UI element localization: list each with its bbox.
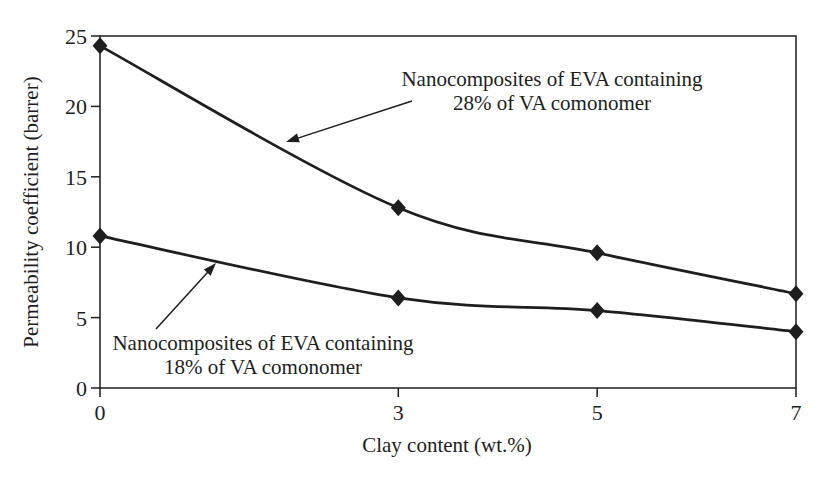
x-tick-label: 0: [95, 400, 106, 425]
data-point-s1-x0: [93, 227, 108, 244]
data-point-s0-x3: [391, 199, 406, 216]
data-point-s0-x7: [789, 285, 804, 302]
data-point-s1-x7: [789, 323, 804, 340]
annotation-arrow-eva28-head: [286, 134, 300, 143]
y-tick-label: 10: [65, 235, 87, 260]
y-tick-label: 15: [65, 165, 87, 190]
data-point-s0-x5: [590, 244, 605, 261]
x-tick-label: 3: [393, 400, 404, 425]
y-tick-label: 20: [65, 94, 87, 119]
y-tick-label: 25: [65, 24, 87, 49]
data-point-s1-x5: [590, 302, 605, 319]
data-point-s1-x3: [391, 289, 406, 306]
y-axis-title: Permeability coefficient (barrer): [19, 76, 44, 347]
annotation-eva28-line2: 28% of VA comonomer: [378, 91, 726, 115]
y-tick-label: 5: [76, 306, 87, 331]
x-tick-label: 5: [592, 400, 603, 425]
annotation-arrow-eva18-line: [156, 270, 209, 329]
data-point-s0-x0: [93, 37, 108, 54]
annotation-eva18-line1: Nanocomposites of EVA containing: [106, 331, 420, 355]
annotation-eva28: Nanocomposites of EVA containing 28% of …: [378, 67, 726, 115]
figure: 05101520250357 Permeability coefficient …: [0, 0, 830, 486]
annotation-eva28-line1: Nanocomposites of EVA containing: [378, 67, 726, 91]
x-tick-label: 7: [791, 400, 802, 425]
annotation-eva18-line2: 18% of VA comonomer: [106, 355, 420, 379]
y-tick-label: 0: [76, 376, 87, 401]
annotation-eva18: Nanocomposites of EVA containing 18% of …: [106, 331, 420, 379]
x-axis-title: Clay content (wt.%): [362, 433, 532, 458]
series-line-1: [100, 236, 796, 332]
